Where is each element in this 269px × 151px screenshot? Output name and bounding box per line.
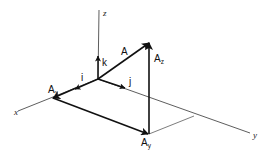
- vector-Ax-label: Ax: [48, 84, 59, 96]
- vector-components-diagram: z x y k i j A Az Ax Ay: [0, 0, 269, 151]
- unit-vector-i-label: i: [81, 72, 83, 83]
- y-axis-label: y: [252, 130, 257, 140]
- vector-Ay-label-sub: y: [148, 142, 152, 150]
- unit-vector-j-label: j: [128, 76, 131, 87]
- x-axis-label: x: [13, 107, 18, 117]
- unit-vector-i: [75, 79, 98, 89]
- vector-Az-label: Az: [154, 53, 164, 65]
- vector-A-label: A: [121, 46, 128, 57]
- z-axis-label: z: [102, 8, 107, 18]
- vector-Ay: [53, 98, 148, 134]
- unit-vector-k-label: k: [102, 57, 108, 68]
- vector-Ay-label: Ay: [141, 137, 152, 150]
- vector-Az-label-sub: z: [161, 58, 164, 65]
- unit-vector-j: [98, 79, 125, 88]
- projection-guide-line: [149, 116, 194, 134]
